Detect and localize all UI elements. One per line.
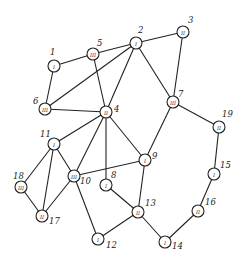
edge-16-14: [165, 211, 198, 242]
edge-11-18: [21, 144, 54, 187]
node-number-label: 7: [178, 89, 184, 99]
node-13: II13: [132, 198, 156, 218]
node-roman-numeral: III: [169, 100, 177, 106]
node-number-label: 14: [172, 241, 183, 251]
node-7: III7: [167, 89, 184, 108]
node-12: I12: [92, 233, 117, 250]
edge-10-9: [74, 160, 145, 176]
node-6: III6: [33, 96, 51, 115]
node-roman-numeral: III: [70, 174, 78, 180]
node-2: I2: [130, 25, 143, 49]
node-11: I11: [40, 129, 60, 150]
node-number-label: 11: [40, 129, 51, 139]
node-number-label: 18: [13, 171, 24, 181]
edge-13-12: [98, 212, 138, 239]
edge-7-9: [145, 102, 173, 160]
node-roman-numeral: III: [17, 185, 25, 191]
edge-11-17: [42, 144, 54, 216]
node-1: I1: [48, 47, 60, 72]
edge-6-4: [45, 109, 106, 112]
node-number-label: 17: [49, 216, 60, 226]
node-15: I15: [208, 160, 231, 180]
node-number-label: 2: [137, 25, 143, 35]
node-number-label: 13: [145, 198, 156, 208]
node-number-label: 8: [111, 170, 117, 180]
node-4: II4: [100, 104, 119, 118]
node-number-label: 19: [222, 109, 233, 119]
edge-19-15: [214, 127, 219, 174]
node-number-label: 4: [113, 104, 119, 114]
edge-10-17: [42, 176, 74, 216]
node-14: I14: [159, 236, 183, 251]
node-3: II3: [177, 15, 193, 38]
network-graph: I1I2II3II4III5III6III7I8I9III10I11I12II1…: [0, 0, 243, 261]
node-roman-numeral: III: [41, 107, 49, 113]
node-number-label: 3: [188, 15, 193, 25]
node-16: II16: [192, 197, 216, 217]
node-number-label: 9: [152, 151, 158, 161]
node-number-label: 6: [33, 96, 39, 106]
node-8: I8: [100, 170, 117, 191]
edge-4-9: [106, 112, 145, 160]
node-roman-numeral: III: [89, 52, 97, 58]
node-number-label: 16: [205, 197, 216, 207]
node-5: III5: [87, 38, 102, 60]
node-number-label: 12: [106, 240, 117, 250]
edge-2-7: [136, 43, 173, 102]
node-number-label: 10: [80, 176, 91, 186]
node-18: III18: [13, 171, 27, 193]
node-number-label: 5: [97, 38, 102, 48]
node-19: II19: [213, 109, 233, 133]
edge-9-13: [138, 160, 145, 212]
edge-5-4: [93, 54, 106, 112]
node-number-label: 15: [220, 160, 231, 170]
node-17: II17: [36, 210, 60, 226]
edge-1-6: [45, 66, 54, 109]
node-number-label: 1: [50, 47, 55, 57]
edge-7-19: [173, 102, 219, 127]
